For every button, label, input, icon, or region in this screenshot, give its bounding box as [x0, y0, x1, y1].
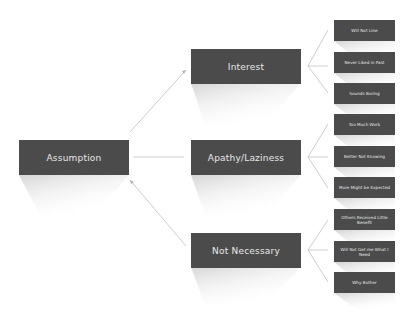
leaf-will-not-line: Will Not Line	[334, 20, 395, 41]
node-apathy-laziness: Apathy/Laziness	[191, 140, 301, 175]
leaf-never-liked-in-past: Never Liked in Past	[334, 52, 395, 73]
leaf-will-not-get-me-what-i-need: Will Not Get me What I Need	[334, 241, 395, 262]
leaf-others-received-little-benefit: Others Received Little Benefit	[334, 209, 395, 230]
node-not-necessary: Not Necessary	[191, 233, 301, 268]
leaf-more-might-be-expected: More Might be Expected	[334, 177, 395, 198]
leaf-better-not-knowing: Better Not Knowing	[334, 146, 395, 167]
node-interest: Interest	[191, 49, 301, 84]
node-assumption: Assumption	[19, 140, 129, 175]
leaf-sounds-boring: Sounds Boring	[334, 83, 395, 104]
leaf-too-much-work: Too Much Work	[334, 114, 395, 135]
leaf-why-bother: Why Bother	[334, 272, 395, 293]
